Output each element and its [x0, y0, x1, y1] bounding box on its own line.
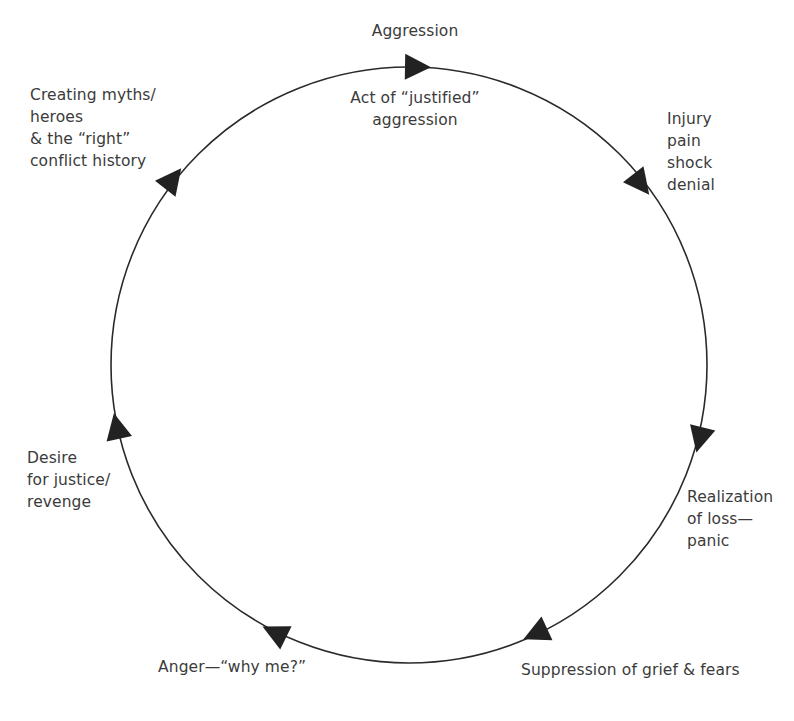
label-line: & the “right” — [30, 128, 156, 150]
label-suppression: Suppression of grief & fears — [521, 659, 740, 681]
label-line: aggression — [330, 109, 500, 131]
label-realization: Realization of loss— panic — [687, 486, 773, 552]
label-line: Act of “justified” — [330, 87, 500, 109]
label-line: panic — [687, 530, 773, 552]
label-line: conflict history — [30, 150, 156, 172]
arrow-right-icon — [684, 424, 716, 456]
label-line: pain — [667, 130, 715, 152]
label-line: for justice/ — [27, 469, 110, 491]
label-line: Anger—“why me?” — [158, 656, 306, 678]
label-line: revenge — [27, 491, 110, 513]
arrow-upper-left-icon — [155, 160, 191, 196]
label-myths: Creating myths/ heroes & the “right” con… — [30, 84, 156, 172]
label-line: Suppression of grief & fears — [521, 659, 740, 681]
arrow-lower-left-icon — [257, 615, 292, 650]
label-line: Injury — [667, 108, 715, 130]
label-line: heroes — [30, 106, 156, 128]
label-line: shock — [667, 152, 715, 174]
label-line: denial — [667, 174, 715, 196]
label-anger: Anger—“why me?” — [158, 656, 306, 678]
label-line: Desire — [27, 447, 110, 469]
arrow-top-icon — [405, 54, 431, 80]
arrow-left-icon — [101, 411, 132, 442]
label-act-of-justified-aggression: Act of “justified” aggression — [330, 87, 500, 131]
label-desire: Desire for justice/ revenge — [27, 447, 110, 513]
arrow-upper-right-icon — [623, 166, 659, 202]
cycle-circle — [111, 67, 707, 663]
label-injury: Injury pain shock denial — [667, 108, 715, 196]
label-aggression: Aggression — [355, 20, 475, 42]
label-line: of loss— — [687, 508, 773, 530]
arrow-lower-right-icon — [518, 617, 553, 652]
label-line: Realization — [687, 486, 773, 508]
label-line: Aggression — [355, 20, 475, 42]
label-line: Creating myths/ — [30, 84, 156, 106]
